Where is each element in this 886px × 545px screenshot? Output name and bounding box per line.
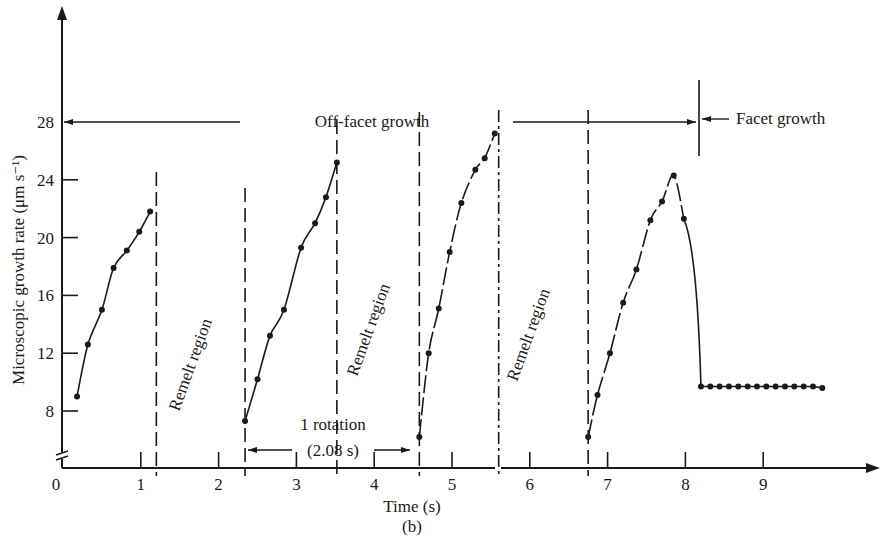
data-point [323,194,329,200]
x-axis [62,463,880,473]
remelt-label-3: Remelt region [503,285,554,383]
data-point [594,392,600,398]
data-point [754,383,760,389]
data-point [298,245,304,251]
data-point [482,155,488,161]
data-point [242,418,248,424]
data-point [492,131,498,137]
data-point [717,383,723,389]
data-point [782,383,788,389]
x-tick-label: 6 [526,475,535,494]
y-axis-arrow-icon [57,6,67,20]
data-point [671,172,677,178]
off-facet-annotation: Off-facet growth [64,112,696,131]
growth-rate-chart: 81216202428 0123456789 Off-facet growth … [0,0,886,545]
x-tick-label: 1 [137,475,146,494]
remelt-label-1: Remelt region [165,315,216,413]
axis-break-icon [55,451,69,460]
x-tick-label: 0 [52,475,61,494]
data-point [111,265,117,271]
y-tick-label: 8 [46,402,55,421]
y-axis-title: Microscopic growth rate (μm s⁻¹) [9,155,28,385]
data-point [647,217,653,223]
data-point [447,249,453,255]
data-point [726,383,732,389]
y-tick-label: 24 [37,171,55,190]
data-point [659,198,665,204]
data-point [85,342,91,348]
data-point [681,216,687,222]
x-tick-label: 2 [214,475,223,494]
y-ticks: 81216202428 [37,113,78,421]
y-tick-label: 20 [37,229,54,248]
data-point [99,307,105,313]
x-ticks: 0123456789 [52,452,768,494]
data-point [334,159,340,165]
data-point [698,383,704,389]
x-tick-label: 4 [370,475,379,494]
data-point [267,333,273,339]
remelt-label-2: Remelt region [343,280,394,378]
data-point [472,167,478,173]
y-tick-label: 16 [37,286,54,305]
data-point [124,248,130,254]
x-axis-title: Time (s) [383,497,440,516]
y-tick-label: 12 [37,344,54,363]
data-point [773,383,779,389]
data-point [312,220,318,226]
data-point [810,383,816,389]
data-point [426,350,432,356]
data-point [74,394,80,400]
data-point [707,383,713,389]
y-tick-label: 28 [37,113,54,132]
x-tick-label: 7 [603,475,612,494]
data-point [763,383,769,389]
off-facet-label: Off-facet growth [315,112,430,131]
data-point [745,383,751,389]
data-point [801,383,807,389]
x-tick-label: 8 [681,475,690,494]
data-point [255,376,261,382]
x-tick-label: 9 [759,475,768,494]
x-tick-label: 5 [448,475,457,494]
rotation-label: 1 rotation [300,415,366,434]
panel-label: (b) [402,517,422,536]
x-axis-arrow-icon [866,463,880,473]
data-point [633,266,639,272]
data-point [791,383,797,389]
data-point [416,434,422,440]
x-tick-label: 3 [292,475,301,494]
data-point [281,307,287,313]
data-point [819,385,825,391]
data-point [147,209,153,215]
rotation-annotation: 1 rotation (2.08 s) [248,415,410,460]
facet-label: Facet growth [736,109,826,128]
data-point [136,229,142,235]
data-point [735,383,741,389]
data-point [620,300,626,306]
rotation-duration: (2.08 s) [307,441,359,460]
facet-annotation: Facet growth [699,80,826,156]
data-point [436,305,442,311]
data-point [585,434,591,440]
data-point [458,200,464,206]
data-point [607,350,613,356]
